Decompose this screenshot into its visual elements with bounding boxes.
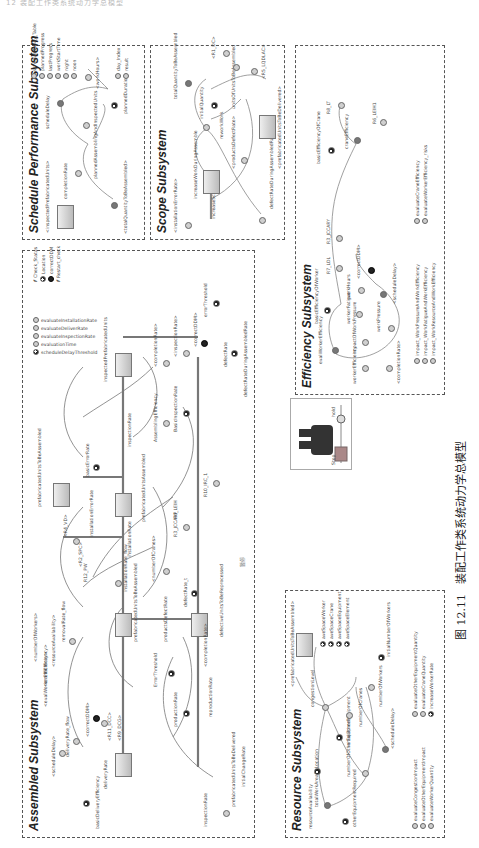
label-number-cranes: <numberOfCranes> (151, 535, 156, 582)
label-initial-workers: initialNumberOfWorkers (386, 602, 391, 657)
label-r10-irc: R10_IRC_1 (203, 473, 208, 497)
legend-node-icon (33, 333, 39, 339)
figure-title: 装配工作类系统动力学总模型 (452, 441, 468, 584)
node-r11-dcc (101, 720, 108, 727)
label-basic-eff-crane: basicEfficiencyOfCrane (316, 111, 321, 164)
assembled-subsystem: Assembled Subsystem (22, 250, 255, 838)
legend-item: scheduleDelayThreshold (33, 349, 97, 355)
node-production-rate (183, 710, 190, 717)
label-r5-lqdlac: <R5_LQDLAC> (261, 44, 266, 79)
label-defect-rate-2: defectRate (223, 342, 228, 367)
label-total-work-area: totalWorkAreaByLocation (314, 749, 319, 807)
resource-legend: evaluateCongestionImpact evaluateOtherEq… (412, 747, 434, 829)
label-total-quantity: totalQuantityToBeAssembled (173, 33, 178, 99)
node-removal-rate-flow (69, 638, 76, 645)
label-prefab-assembled: <prefabricatedUnitsToBeAssembled> (290, 601, 295, 687)
legend-node-icon (31, 73, 37, 79)
legend-item: impact_WorkResourceAndWorkEfficiency (430, 262, 436, 364)
label-planned-duration: plannedDuration (123, 75, 128, 114)
legend-item: lastProgress (47, 23, 53, 79)
label-total-units: unitsOfUnitsToBeAssembled (231, 45, 236, 109)
legend-const-icon (320, 641, 326, 647)
node-rework-work (203, 124, 210, 131)
legend-node-icon (71, 73, 77, 79)
label-schedule-delay: scheduleDelay (45, 95, 50, 129)
label-r1-dc: <R1_DC> (211, 36, 216, 59)
node-r6-leih (380, 119, 387, 126)
node-assembling-eff (163, 420, 170, 427)
label-prefab-assembled: prefabricatedUnitsAssembled (141, 454, 146, 522)
legend-label: lastProgress (48, 43, 53, 71)
legend-node-icon (420, 711, 426, 717)
node-r3-jccarp (183, 524, 190, 531)
legend-label: workStartTime (56, 37, 61, 71)
efficiency-subsystem-title: Efficiency Subsystem (300, 264, 314, 388)
legend-node-icon (123, 73, 129, 79)
node-total-work-area (314, 768, 321, 775)
node-basic-eff-worker (324, 307, 331, 314)
legend-node-icon (422, 218, 428, 224)
label-defect-rate-assembled: defectRateDuringAssembledRate (243, 321, 248, 397)
legend-const-icon (344, 641, 350, 647)
node-basic-inspection-rate (183, 410, 190, 417)
label-basic-error-rate: basicErrorRate (85, 443, 90, 477)
figure-caption: 图 12.11 装配工作类系统动力学总模型 (452, 300, 468, 640)
label-delivery-rate: deliveryRate (103, 760, 108, 789)
label-r2-spc: <R2_SPC> (78, 542, 83, 567)
legend-label: evaluateOtherEquipmentQuantity (413, 631, 418, 709)
legend-item: correctDDM (48, 246, 54, 282)
legend-item: evaluateInstallationRate (33, 317, 97, 323)
label-defect-rate-t: defectRate_t (183, 578, 188, 607)
node-planned-assembling (83, 122, 90, 129)
label-resource-avail: <resourceAvailability> (51, 614, 56, 667)
label-initial-change-rate: initialChangeRate (241, 746, 246, 787)
label-initial-quantity: initialQuantity (199, 87, 204, 119)
legend-item: evaluateInspectionRate (33, 333, 97, 339)
legend-const-icon (336, 641, 342, 647)
stock-prefab-delivered (259, 115, 276, 139)
node-defect-rate (241, 157, 248, 164)
stock-prefab-units-to-deliver (115, 753, 132, 777)
legend-label: noon (72, 60, 77, 71)
label-prefab-to-assemble: prefabricatedUnitsToBeAssembled (133, 563, 138, 642)
resource-space-legend: aveSpaceWorker aveSpaceCrane aveSpaceEqu… (320, 592, 350, 647)
legend-node-icon (33, 341, 39, 347)
label-defective-units: defectiveUnitsToBeReprocessed (219, 564, 224, 637)
node-r10-irc (213, 480, 220, 487)
label-inspection-rate: inspectionRate (127, 413, 132, 447)
node-correct-ddm (93, 715, 100, 722)
node-crane-eff (354, 137, 361, 144)
node-schedule-delay (382, 746, 389, 753)
label-work-hours: <workHours> (95, 57, 100, 89)
legend-item: evaluateCongestionImpact (412, 747, 418, 829)
legend-label: result (124, 58, 129, 71)
label-installation-rate: installationRate (127, 521, 132, 557)
stock-completion (57, 205, 74, 229)
label-number-cranes: numberOfCranes (358, 688, 363, 727)
legend-node-icon (55, 73, 61, 79)
diagram-canvas: Assembled Subsystem (22, 43, 447, 838)
node-defect-rate-2 (231, 350, 238, 357)
node-number-cranes (346, 712, 353, 719)
label-rework-work: reworkWork (219, 112, 224, 139)
schedule-legend-2: day_Index result (115, 48, 129, 79)
page-header: 12 装配工作类系统动力学总模型 (6, 0, 156, 6)
legend-node-icon (47, 73, 53, 79)
label-inspected-units: inspectedPrefabricatedUnits (103, 317, 108, 382)
label-congestion: congestionLevel (310, 670, 315, 707)
legend-label: aveSpaceWorker (321, 600, 326, 639)
label-inspection-rate-ref: inspectionRate (203, 793, 208, 827)
legend-label: impact_WorkPressureAndWorkEfficiency (415, 264, 420, 356)
label-error-threshold: ErrorThreshold (153, 653, 158, 687)
legend-label: evaluateCraneEfficiency (415, 160, 420, 216)
legend-item: evaluationTime (33, 341, 97, 347)
label-completion-rate: <completionRate> (203, 623, 208, 667)
legend-label: evaluateCraneQuantity (421, 656, 426, 710)
hold-note: 暂停 (238, 557, 245, 567)
node-number-cranes (163, 568, 170, 575)
node-defect-rate-t (191, 590, 198, 597)
node-r8-lt (338, 102, 345, 109)
legend-const-icon (40, 276, 46, 282)
label-defect-rate: <productsDefectRate> (231, 116, 236, 169)
node-install-rate-flow (115, 580, 122, 587)
